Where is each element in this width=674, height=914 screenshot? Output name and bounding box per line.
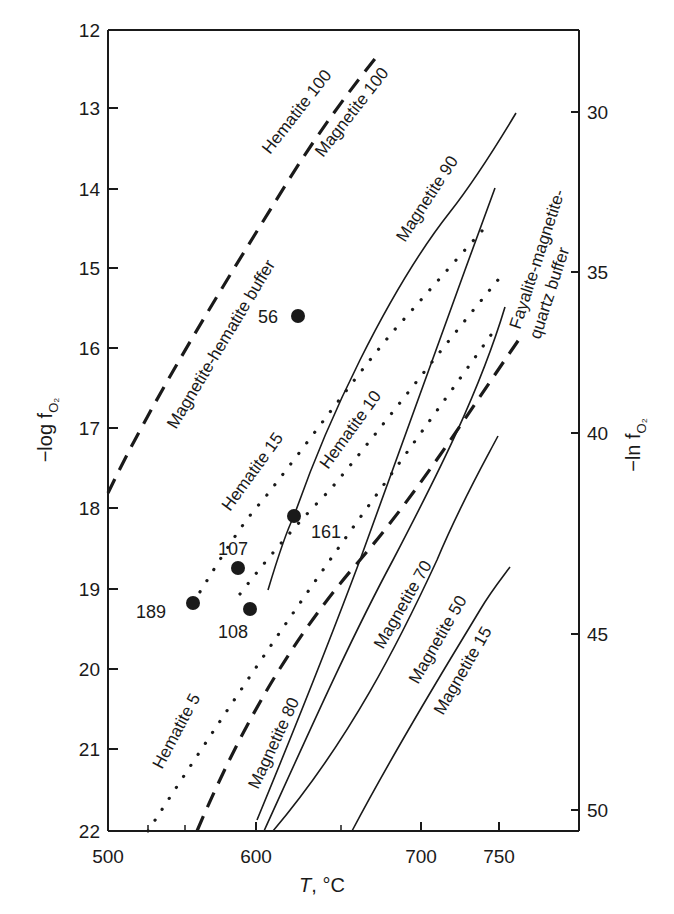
mag80-curve bbox=[257, 188, 495, 820]
y-right-tick-label: 40 bbox=[587, 423, 608, 444]
curve-label-magnetite-90: Magnetite 90 bbox=[392, 152, 461, 245]
y-tick-label: 22 bbox=[79, 821, 100, 842]
x-axis-title: T, °C bbox=[299, 874, 345, 896]
y-right-tick-label: 50 bbox=[587, 800, 608, 821]
curve-labels-layer: Hematite 100Magnetite 100Magnetite-hemat… bbox=[149, 64, 574, 792]
sample-label-56: 56 bbox=[258, 307, 278, 327]
y-tick-label: 16 bbox=[79, 338, 100, 359]
sample-label-189: 189 bbox=[136, 602, 166, 622]
sample-label-107: 107 bbox=[218, 539, 248, 559]
y-tick-label: 13 bbox=[79, 98, 100, 119]
curve-label-hematite-10: Hematite 10 bbox=[316, 387, 385, 472]
y-tick-label: 20 bbox=[79, 659, 100, 680]
curve-label-magnetite-hematite-buffer: Magnetite-hematite buffer bbox=[163, 256, 279, 432]
sample-label-161: 161 bbox=[311, 522, 341, 542]
mag15-curve bbox=[352, 567, 510, 831]
y-right-tick-label: 35 bbox=[587, 262, 608, 283]
x-tick-label: 750 bbox=[483, 846, 515, 867]
x-tick-label: 500 bbox=[92, 846, 124, 867]
y-tick-label: 15 bbox=[79, 258, 100, 279]
sample-point-56 bbox=[291, 309, 305, 323]
curve-label-hematite-5: Hematite 5 bbox=[149, 690, 204, 772]
sample-point-161 bbox=[287, 509, 301, 523]
y-tick-label: 17 bbox=[79, 418, 100, 439]
sample-point-107 bbox=[231, 561, 245, 575]
y-right-tick-label: 45 bbox=[587, 624, 608, 645]
chart-canvas: 1213141516171819202122303540455050060070… bbox=[0, 0, 674, 914]
y-tick-label: 12 bbox=[79, 20, 100, 41]
sample-label-108: 108 bbox=[218, 622, 248, 642]
x-tick-label: 600 bbox=[240, 846, 272, 867]
curves-layer bbox=[108, 55, 520, 831]
y-tick-label: 14 bbox=[79, 179, 101, 200]
curve-label-hematite-15: Hematite 15 bbox=[218, 429, 287, 514]
y-tick-label: 19 bbox=[79, 579, 100, 600]
y-tick-label: 18 bbox=[79, 498, 100, 519]
y-axis-title-right: −ln fO₂ bbox=[622, 418, 649, 472]
y-axis-title-left: −log fO₂ bbox=[34, 398, 61, 463]
sample-point-108 bbox=[243, 602, 257, 616]
y-right-tick-label: 30 bbox=[587, 102, 608, 123]
oxygen-fugacity-chart: 1213141516171819202122303540455050060070… bbox=[0, 0, 674, 914]
curve-label-magnetite-70: Magnetite 70 bbox=[370, 557, 436, 652]
sample-point-189 bbox=[186, 596, 200, 610]
y-tick-label: 21 bbox=[79, 739, 100, 760]
x-tick-label: 700 bbox=[405, 846, 437, 867]
mag70-curve bbox=[264, 307, 505, 831]
hem5-curve bbox=[148, 325, 498, 831]
